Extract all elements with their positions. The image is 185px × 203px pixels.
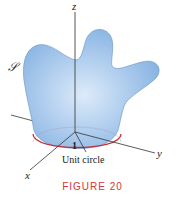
surface-label: 𝒮 xyxy=(8,61,17,73)
radius-label: 1 xyxy=(72,141,77,151)
y-axis-label: y xyxy=(157,148,162,159)
z-axis-label: z xyxy=(72,1,76,12)
figure-caption: FIGURE 20 xyxy=(0,182,185,192)
unit-circle-label: Unit circle xyxy=(62,155,104,165)
x-axis-label: x xyxy=(25,170,30,181)
surface-s xyxy=(24,29,160,148)
